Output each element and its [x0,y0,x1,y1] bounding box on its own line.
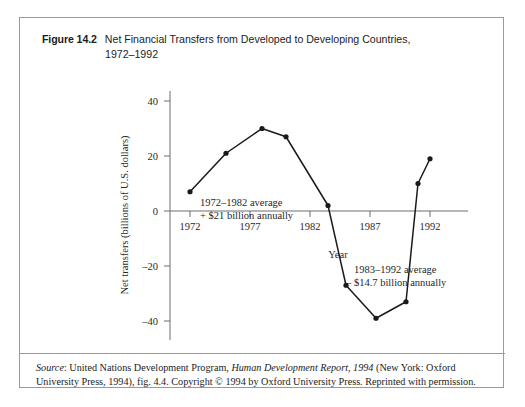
data-point [427,156,432,161]
y-tick-label-minus20: –20 [141,261,158,272]
y-tick-label-minus40: –40 [141,316,158,327]
source-italic-title: Human Development Report, 1994 [231,362,373,373]
x-tick-label-1992: 1992 [420,221,441,232]
data-point [415,181,420,186]
line-chart-svg: 40 20 0 –20 –40 1972 1977 1982 1987 1992… [20,18,505,348]
y-axis-title: Net transfers (billions of U.S. dollars) [119,135,131,294]
y-tick-label-0: 0 [153,206,158,217]
data-point [187,189,192,194]
x-tick-label-1987: 1987 [360,221,381,232]
annotation-first-line1: 1972–1982 average [200,197,283,208]
data-point [283,134,288,139]
annotation-second-line2: – $14.7 billion annually [345,277,447,288]
source-label: Source [36,362,64,373]
data-point [373,316,378,321]
x-tick-label-1977: 1977 [240,221,261,232]
x-tick-label-1972: 1972 [180,221,201,232]
source-text-part1: : United Nations Development Program, [64,362,232,373]
y-axis-ticks [164,101,170,321]
data-point [325,203,330,208]
source-citation: Source: United Nations Development Progr… [36,361,491,388]
annotation-second-line1: 1983–1992 average [354,264,437,275]
chart-plot-area: 40 20 0 –20 –40 1972 1977 1982 1987 1992… [20,18,505,348]
source-divider [20,353,505,354]
annotation-first-line2: + $21 billion annually [200,210,294,221]
figure-container: Figure 14.2Net Financial Transfers from … [19,17,504,388]
data-point [259,126,264,131]
y-tick-label-20: 20 [148,151,159,162]
data-point [403,299,408,304]
data-point [223,151,228,156]
y-tick-label-40: 40 [148,96,159,107]
x-tick-label-1982: 1982 [300,221,321,232]
